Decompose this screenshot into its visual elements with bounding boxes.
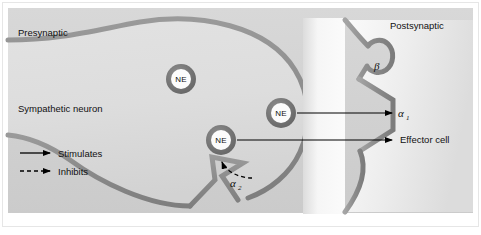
vesicle-label: NE: [175, 75, 187, 84]
alpha2-subscript: 2: [238, 184, 242, 192]
alpha1-subscript: 1: [406, 114, 410, 122]
alpha1-symbol: α: [398, 107, 404, 119]
vesicle-ne-1: NE: [166, 64, 196, 94]
label-sympathetic-neuron: Sympathetic neuron: [18, 103, 103, 114]
label-beta-receptor: β: [373, 60, 380, 72]
vesicle-label: NE: [215, 136, 227, 145]
vesicle-ne-3: NE: [206, 125, 236, 155]
legend-inhibits-label: Inhibits: [58, 166, 88, 177]
label-postsynaptic: Postsynaptic: [390, 20, 444, 31]
vesicle-label: NE: [275, 109, 287, 118]
synaptic-cleft: [303, 18, 345, 214]
legend-stimulates-label: Stimulates: [58, 148, 103, 159]
alpha2-symbol: α: [230, 177, 236, 189]
label-presynaptic: Presynaptic: [18, 27, 68, 38]
label-effector-cell: Effector cell: [400, 134, 449, 145]
vesicle-ne-2: NE: [266, 98, 296, 128]
diagram-figure: NE NE NE Presynaptic Sympathetic neuron …: [0, 0, 481, 235]
